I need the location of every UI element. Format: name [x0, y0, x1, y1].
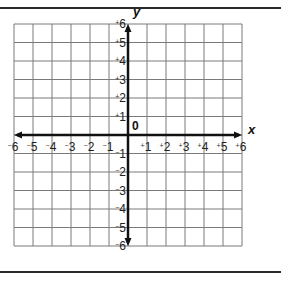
- x-tick-label: +1: [141, 140, 152, 154]
- y-tick-label: +4: [115, 54, 126, 68]
- y-tick-label: −5: [115, 221, 126, 235]
- x-tick-label: −6: [8, 140, 19, 154]
- x-tick-label: +4: [198, 140, 209, 154]
- y-tick-label: +5: [115, 36, 126, 50]
- y-tick-label: +1: [115, 110, 126, 124]
- x-axis-left-arrow-icon: [14, 132, 22, 139]
- x-tick-label: −5: [27, 140, 38, 154]
- x-tick-label: +5: [217, 140, 228, 154]
- x-tick-label: +3: [179, 140, 190, 154]
- y-axis-label: y: [132, 4, 141, 19]
- coordinate-plane: −6−5−4−3−2−1+1+2+3+4+5+6+6+5+4+3+2+1−1−2…: [0, 0, 281, 282]
- x-tick-label: −4: [46, 140, 57, 154]
- y-tick-label: −6: [115, 239, 126, 253]
- x-axis-right-arrow-icon: [234, 132, 242, 139]
- y-tick-label: −1: [115, 147, 126, 161]
- x-tick-label: −2: [84, 140, 95, 154]
- y-tick-label: −2: [115, 165, 126, 179]
- x-tick-label: −1: [103, 140, 114, 154]
- x-tick-label: +2: [160, 140, 171, 154]
- y-tick-label: −4: [115, 202, 126, 216]
- x-tick-label: +6: [236, 140, 247, 154]
- y-tick-label: +2: [115, 91, 126, 105]
- x-axis-label: x: [247, 122, 256, 137]
- y-tick-label: +3: [115, 73, 126, 87]
- y-tick-label: +6: [115, 17, 126, 31]
- origin-label: 0: [132, 119, 139, 133]
- x-tick-label: −3: [65, 140, 76, 154]
- y-tick-label: −3: [115, 184, 126, 198]
